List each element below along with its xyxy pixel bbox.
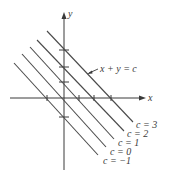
line-label-cminus1: c = −1 bbox=[103, 155, 131, 166]
level-line-c3 bbox=[47, 31, 133, 122]
level-line-cminus1 bbox=[14, 63, 98, 155]
level-curves-diagram: y x x + y = c c = 3 c = 2 c = 1 c = 0 c … bbox=[0, 0, 171, 182]
y-axis-arrow-icon bbox=[62, 12, 67, 19]
x-axis-label: x bbox=[147, 92, 153, 103]
diagram-canvas: y x x + y = c c = 3 c = 2 c = 1 c = 0 c … bbox=[0, 0, 171, 182]
y-axis bbox=[62, 12, 67, 170]
equation-pointer bbox=[87, 69, 98, 74]
x-axis-arrow-icon bbox=[139, 96, 146, 101]
pointer-arrow-icon bbox=[87, 71, 93, 75]
level-line-c1 bbox=[30, 47, 114, 139]
y-axis-label: y bbox=[67, 8, 73, 19]
equation-label: x + y = c bbox=[99, 63, 137, 74]
level-lines bbox=[14, 31, 133, 155]
